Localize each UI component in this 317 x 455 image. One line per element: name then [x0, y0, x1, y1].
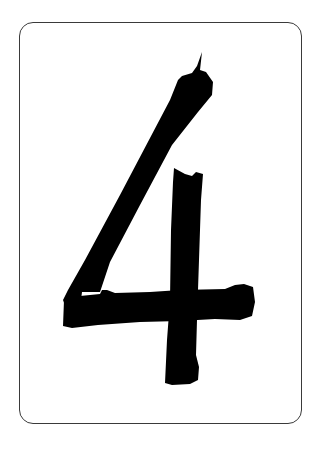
vertical-stroke	[165, 168, 203, 385]
brush-numeral-4	[0, 0, 317, 455]
